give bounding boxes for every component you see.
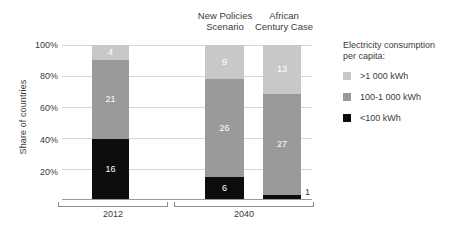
legend-item-high[interactable]: >1 000 kWh [343,71,455,81]
legend-title: Electricity consumption per capita: [343,40,455,62]
y-tick-60: 60% [24,103,58,113]
y-tick-20: 20% [24,167,58,177]
scenario-header-african-century: African Century Case [245,10,323,32]
bar-acc-segment-mid[interactable]: 27 [263,94,301,195]
legend-swatch-mid-icon [343,93,351,101]
bar-2012-segment-high[interactable]: 4 [92,45,129,60]
bar-acc-label-mid: 27 [277,140,287,149]
scenario-header-african-century-line2: Century Case [245,21,323,32]
legend-title-line1: Electricity consumption [343,40,455,51]
plot-area: 4 21 16 9 26 6 13 [62,45,312,199]
y-tick-40: 40% [24,135,58,145]
bar-2012-label-low: 16 [105,165,115,174]
bar-2040-african-century[interactable]: 13 27 1 [263,45,301,199]
bar-nps-segment-low[interactable]: 6 [205,177,244,199]
bar-acc-label-low: 1 [305,188,310,197]
bar-2012-segment-mid[interactable]: 21 [92,60,129,139]
legend-label-mid: 100-1 000 kWh [360,92,421,102]
chart-figure: Share of countries 100% 80% 60% 40% 20% … [0,0,458,226]
bar-nps-label-high: 9 [222,58,227,67]
legend: Electricity consumption per capita: >1 0… [343,40,455,134]
bar-2040-new-policies[interactable]: 9 26 6 [205,45,244,199]
bar-2012-label-high: 4 [108,48,113,57]
scenario-header-african-century-line1: African [245,10,323,21]
legend-title-line2: per capita: [343,51,455,62]
legend-label-high: >1 000 kWh [360,71,408,81]
category-bracket-2040 [174,202,314,207]
bar-nps-label-mid: 26 [219,124,229,133]
bar-acc-label-high: 13 [277,65,287,74]
y-tick-80: 80% [24,71,58,81]
y-tick-100: 100% [24,40,58,50]
bar-nps-segment-high[interactable]: 9 [205,45,244,79]
category-label-2012: 2012 [58,209,168,219]
x-axis-baseline [62,199,312,200]
category-label-2040: 2040 [174,209,314,219]
category-bracket-2012 [58,202,168,207]
bar-acc-segment-high[interactable]: 13 [263,45,301,94]
y-axis-ticks: 100% 80% 60% 40% 20% [20,0,58,226]
legend-label-low: <100 kWh [360,113,401,123]
legend-item-low[interactable]: <100 kWh [343,113,455,123]
bar-nps-segment-mid[interactable]: 26 [205,79,244,177]
legend-item-mid[interactable]: 100-1 000 kWh [343,92,455,102]
bar-2012-label-mid: 21 [105,95,115,104]
bar-nps-label-low: 6 [222,184,227,193]
legend-swatch-low-icon [343,114,351,122]
bar-2012[interactable]: 4 21 16 [92,45,129,199]
legend-swatch-high-icon [343,72,351,80]
bar-acc-segment-low[interactable]: 1 [263,195,301,199]
bar-2012-segment-low[interactable]: 16 [92,139,129,199]
